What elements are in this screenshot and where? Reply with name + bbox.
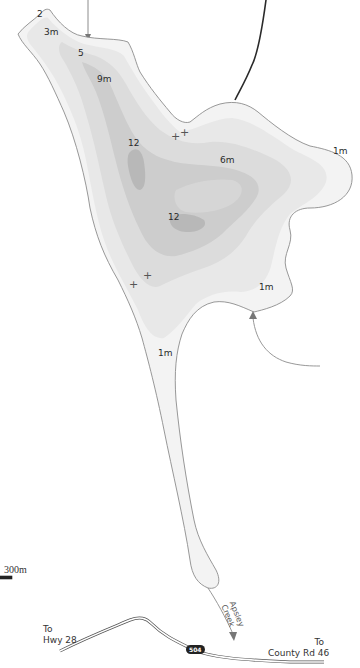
depth-label: 9m	[97, 75, 112, 84]
hazard-marker-icon: +	[171, 131, 180, 142]
highway-shield-504: 504	[186, 645, 205, 654]
inflow-stream-east	[253, 318, 320, 366]
depth-label: 2	[37, 10, 43, 19]
depth-label: 1m	[333, 147, 348, 156]
scale-bar	[0, 576, 12, 579]
depth-label: 12	[128, 139, 139, 148]
depth-label: 1m	[259, 283, 274, 292]
road-label-county-rd-46: To County Rd 46	[268, 637, 324, 659]
hazard-marker-icon: +	[143, 270, 152, 281]
depth-label: 3m	[44, 28, 59, 37]
hazard-marker-icon: +	[129, 279, 138, 290]
hazard-marker-icon: +	[180, 127, 189, 138]
scale-bar-label: 300m	[4, 564, 27, 575]
inflow-arrow-east-icon	[249, 311, 257, 319]
depth-label: 1m	[158, 349, 173, 358]
trail-line	[235, 0, 266, 100]
depth-label: 12	[168, 213, 179, 222]
depth-label: 5	[78, 49, 84, 58]
creek-arrow-icon	[229, 632, 237, 641]
map-canvas	[0, 0, 360, 668]
lake-map: 2 3m 5 9m 12 6m 12 1m 1m 1m + + + + 300m…	[0, 0, 360, 668]
depth-label: 6m	[220, 156, 235, 165]
road-label-hwy-28: To Hwy 28	[43, 624, 77, 646]
